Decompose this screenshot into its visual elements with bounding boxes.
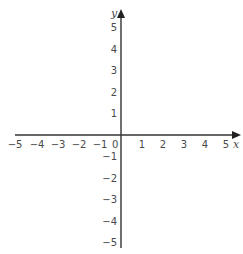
y-tick-label: 5 [111, 22, 117, 33]
y-tick-label: 1 [111, 108, 117, 119]
x-tick-label: −1 [93, 139, 108, 150]
y-tick-label: 3 [111, 65, 117, 76]
y-tick-label: −4 [102, 216, 117, 227]
x-tick-label: −4 [30, 139, 45, 150]
x-axis-label: x [233, 138, 240, 151]
y-tick-label: −5 [102, 237, 117, 248]
x-tick-label: −5 [8, 139, 23, 150]
y-axis-arrow-icon [117, 9, 125, 18]
y-tick-label: 4 [111, 44, 117, 55]
x-tick-label: 2 [160, 139, 166, 150]
y-axis-label: y [110, 7, 118, 20]
x-tick-label: 4 [202, 139, 208, 150]
y-tick-label: −2 [102, 173, 117, 184]
origin-label: 0 [112, 139, 118, 150]
y-tick-label: 2 [111, 87, 117, 98]
x-tick-label: −3 [51, 139, 66, 150]
coordinate-plane: x y 0 −5 −4 −3 −2 −1 1 2 3 4 5 5 4 3 2 1… [0, 0, 243, 254]
x-tick-label: 1 [139, 139, 145, 150]
x-tick-labels: −5 −4 −3 −2 −1 1 2 3 4 5 [8, 139, 230, 150]
x-tick-label: −2 [72, 139, 87, 150]
y-tick-label: −3 [102, 194, 117, 205]
x-tick-label: 5 [223, 139, 229, 150]
y-tick-label: −1 [102, 151, 117, 162]
x-tick-label: 3 [181, 139, 187, 150]
